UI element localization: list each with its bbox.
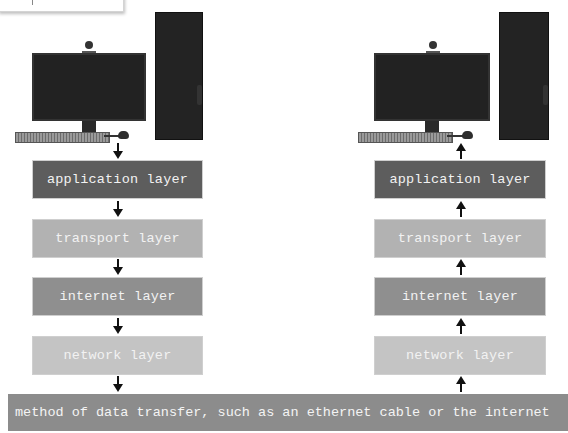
sender-transport-layer: transport layer <box>32 219 203 258</box>
arrow-down-icon <box>112 259 124 275</box>
sender-application-layer: application layer <box>32 160 203 199</box>
receiver-computer <box>0 0 565 150</box>
keyboard-icon <box>358 132 453 143</box>
transfer-medium-bar: method of data transfer, such as an ethe… <box>8 394 568 431</box>
monitor-icon <box>374 53 490 121</box>
pc-tower-icon <box>499 12 549 140</box>
arrow-down-icon <box>112 376 124 392</box>
arrow-up-icon <box>455 318 467 334</box>
arrow-up-icon <box>455 143 467 159</box>
arrow-up-icon <box>455 201 467 217</box>
arrow-down-icon <box>112 201 124 217</box>
receiver-network-layer: network layer <box>374 336 546 375</box>
receiver-transport-layer: transport layer <box>374 219 546 258</box>
webcam-icon <box>429 41 437 49</box>
arrow-up-icon <box>455 259 467 275</box>
arrow-up-icon <box>455 376 467 392</box>
receiver-application-layer: application layer <box>374 160 546 199</box>
mouse-icon <box>462 131 473 139</box>
mouse-cable <box>447 135 463 137</box>
receiver-internet-layer: internet layer <box>374 277 546 316</box>
arrow-down-icon <box>112 318 124 334</box>
sender-internet-layer: internet layer <box>32 277 203 316</box>
sender-network-layer: network layer <box>32 336 203 375</box>
arrow-down-icon <box>112 143 124 159</box>
